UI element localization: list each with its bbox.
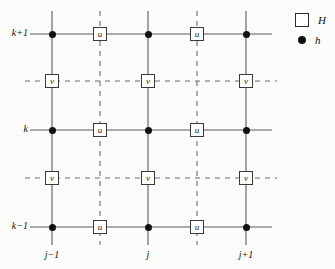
h-node bbox=[243, 31, 250, 38]
legend-dot-icon bbox=[298, 36, 306, 44]
legend-item-h: h bbox=[295, 34, 321, 46]
h-node bbox=[49, 224, 56, 231]
legend-item-H: H bbox=[295, 13, 326, 27]
h-node bbox=[243, 127, 250, 134]
u-node: u bbox=[190, 123, 204, 137]
v-node: v bbox=[45, 74, 59, 88]
h-node bbox=[49, 127, 56, 134]
legend-square-icon bbox=[295, 13, 309, 27]
staggered-grid-figure: u u u u u u v v v v v v k+1 k k−1 j−1 j … bbox=[0, 0, 335, 269]
u-node: u bbox=[93, 27, 107, 41]
u-node: u bbox=[93, 220, 107, 234]
h-node bbox=[49, 31, 56, 38]
column-label-j-minus-1: j−1 bbox=[32, 249, 72, 260]
row-label-k-plus-1: k+1 bbox=[0, 27, 28, 38]
h-node bbox=[145, 224, 152, 231]
h-node bbox=[243, 224, 250, 231]
row-label-k-minus-1: k−1 bbox=[0, 220, 28, 231]
u-node: u bbox=[93, 123, 107, 137]
column-label-j: j bbox=[128, 249, 168, 260]
v-node: v bbox=[141, 74, 155, 88]
legend-label-H: H bbox=[318, 14, 326, 26]
u-node: u bbox=[190, 27, 204, 41]
row-label-k: k bbox=[0, 123, 28, 134]
v-node: v bbox=[239, 171, 253, 185]
v-node: v bbox=[239, 74, 253, 88]
h-node bbox=[145, 127, 152, 134]
h-node bbox=[145, 31, 152, 38]
column-label-j-plus-1: j+1 bbox=[226, 249, 266, 260]
legend-label-h: h bbox=[315, 34, 321, 46]
v-node: v bbox=[141, 171, 155, 185]
v-node: v bbox=[45, 171, 59, 185]
u-node: u bbox=[190, 220, 204, 234]
